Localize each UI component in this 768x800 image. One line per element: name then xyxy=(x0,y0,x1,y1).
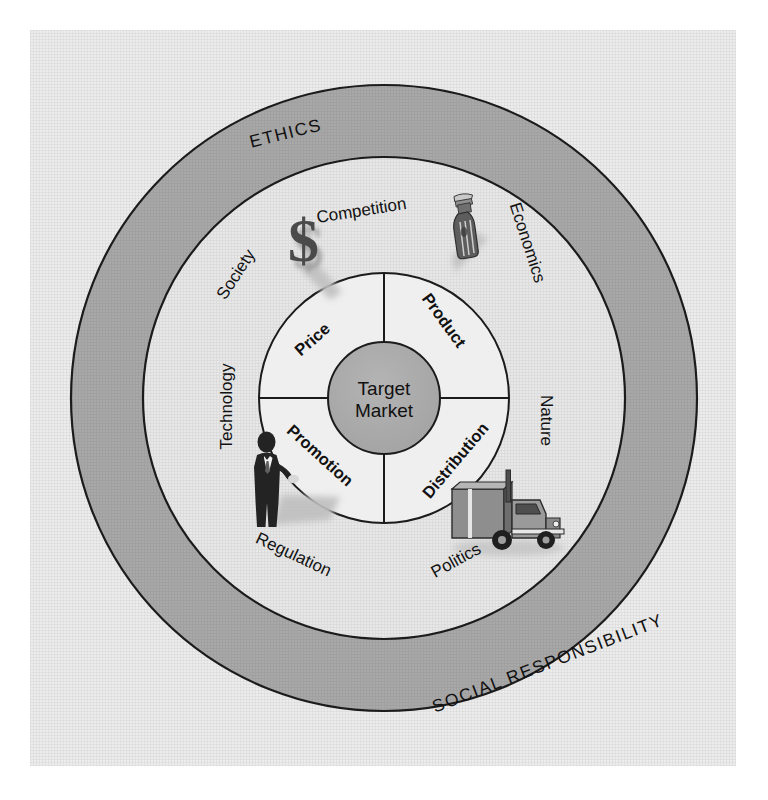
force-label-nature: Nature xyxy=(538,395,555,446)
dollar-sign-icon: $ xyxy=(288,209,319,271)
diagram-canvas: $ ETHICS SOCIAL RESPONSIBILITY Competiti… xyxy=(0,0,768,800)
core-label-line1: Target xyxy=(336,378,432,400)
core-label-target-market: Target Market xyxy=(336,378,432,423)
force-label-technology: Technology xyxy=(218,363,235,449)
core-label-line2: Market xyxy=(336,400,432,422)
